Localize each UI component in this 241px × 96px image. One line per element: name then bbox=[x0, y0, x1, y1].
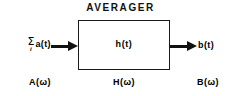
output-arrow-head bbox=[187, 41, 197, 51]
output-arrow-icon bbox=[170, 41, 197, 52]
system-spectrum-label: H(ω) bbox=[92, 76, 156, 88]
output-signal-label: b(t) bbox=[198, 40, 240, 51]
block-impulse-response-label: h(t) bbox=[78, 38, 170, 50]
input-spectrum-label: A(ω) bbox=[8, 76, 72, 88]
input-arrow-shaft bbox=[51, 45, 69, 48]
input-signal-text: a(t) bbox=[35, 39, 51, 50]
output-spectrum-label: B(ω) bbox=[176, 76, 240, 88]
block-diagram: AVERAGER h(t) Σ i a(t) b(t) A(ω) H(ω) B(… bbox=[0, 0, 241, 96]
input-signal-label: Σ i a(t) bbox=[2, 36, 51, 52]
input-arrow-icon bbox=[51, 41, 78, 52]
summation-symbol: Σ i bbox=[27, 36, 34, 52]
input-arrow-head bbox=[68, 41, 78, 51]
output-arrow-shaft bbox=[170, 45, 188, 48]
page-title: AVERAGER bbox=[0, 2, 241, 14]
